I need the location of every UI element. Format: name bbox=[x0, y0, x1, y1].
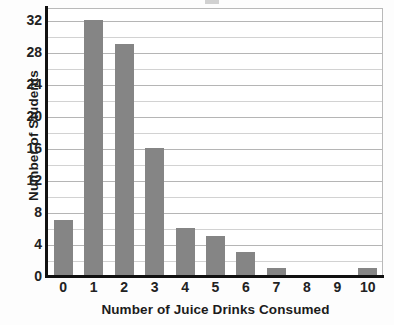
x-axis-spine bbox=[45, 275, 384, 278]
x-tick-label: 6 bbox=[242, 280, 250, 294]
x-tick-label: 9 bbox=[333, 280, 341, 294]
bar bbox=[115, 44, 134, 276]
x-axis-title: Number of Juice Drinks Consumed bbox=[48, 302, 383, 317]
y-tick-label: 28 bbox=[16, 45, 42, 59]
bar-series bbox=[48, 9, 382, 276]
bar bbox=[236, 252, 255, 276]
y-tick-label: 16 bbox=[16, 141, 42, 155]
bar-chart-screenshot: Number of Students 048121620242832 01234… bbox=[0, 0, 394, 325]
x-tick-label: 2 bbox=[120, 280, 128, 294]
y-tick-label: 24 bbox=[16, 77, 42, 91]
y-tick-label: 32 bbox=[16, 13, 42, 27]
x-tick-label: 3 bbox=[151, 280, 159, 294]
y-axis-tick-labels: 048121620242832 bbox=[16, 8, 42, 276]
y-axis-spine bbox=[45, 6, 48, 278]
x-tick-label: 7 bbox=[273, 280, 281, 294]
y-tick-label: 20 bbox=[16, 109, 42, 123]
x-tick-label: 10 bbox=[360, 280, 376, 294]
x-axis-tick-labels: 012345678910 bbox=[48, 280, 383, 300]
plot-area bbox=[48, 8, 383, 276]
bar bbox=[176, 228, 195, 276]
x-tick-label: 0 bbox=[59, 280, 67, 294]
x-tick-label: 4 bbox=[181, 280, 189, 294]
y-tick-label: 12 bbox=[16, 173, 42, 187]
bar bbox=[206, 236, 225, 276]
y-tick-label: 4 bbox=[16, 237, 42, 251]
x-tick-label: 1 bbox=[90, 280, 98, 294]
x-tick-label: 5 bbox=[212, 280, 220, 294]
bar bbox=[84, 20, 103, 276]
bar bbox=[54, 220, 73, 276]
y-tick-label: 8 bbox=[16, 205, 42, 219]
cropped-title-remnant bbox=[205, 0, 219, 4]
bar bbox=[145, 148, 164, 276]
x-tick-label: 8 bbox=[303, 280, 311, 294]
y-tick-label: 0 bbox=[16, 269, 42, 283]
